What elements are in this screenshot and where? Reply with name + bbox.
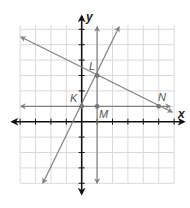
point-l [95, 73, 100, 78]
point-n [156, 104, 161, 109]
point-k [79, 104, 84, 109]
x-axis-label: x [177, 107, 186, 121]
label-n: N [158, 91, 166, 103]
label-k: K [70, 92, 78, 104]
coordinate-graph: x y K L M N [0, 0, 190, 208]
label-m: M [99, 108, 109, 120]
label-l: L [89, 60, 95, 72]
y-axis-label: y [85, 10, 94, 24]
